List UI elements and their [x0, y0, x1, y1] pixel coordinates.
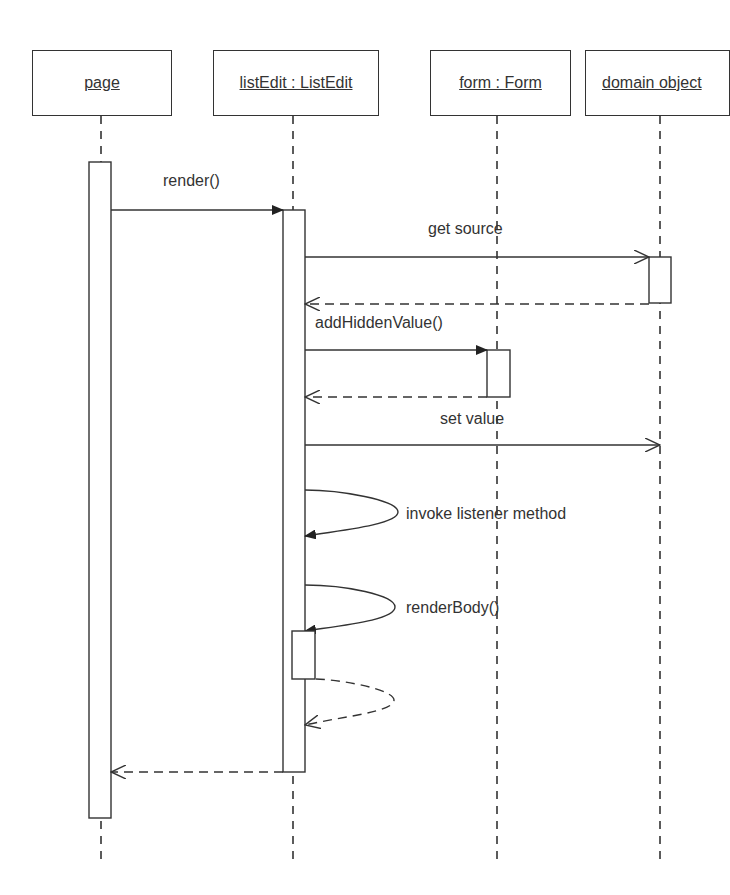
- participant-domain-object: domain object: [585, 50, 730, 116]
- activation-renderbody: [292, 631, 315, 679]
- message-set-value-label: set value: [440, 410, 504, 428]
- message-render-label: render(): [163, 172, 220, 190]
- message-get-source-label: get source: [428, 220, 503, 238]
- activation-domain-get: [649, 257, 671, 303]
- activation-page: [89, 162, 111, 818]
- participant-page: page: [32, 50, 172, 116]
- self-return-renderbody-arrow: [305, 679, 394, 725]
- self-message-renderbody-arrow: [305, 585, 395, 631]
- participant-form: form : Form: [430, 50, 571, 116]
- participant-domain-object-label: domain object: [602, 74, 702, 92]
- message-addhiddenvalue-label: addHiddenValue(): [315, 314, 443, 332]
- participant-page-label: page: [84, 74, 120, 92]
- message-invoke-listener-label: invoke listener method: [406, 505, 566, 523]
- self-message-invoke-listener-arrow: [305, 490, 398, 536]
- activation-listedit: [283, 210, 305, 772]
- participant-listedit-label: listEdit : ListEdit: [240, 74, 353, 92]
- participant-listedit: listEdit : ListEdit: [213, 50, 379, 116]
- activation-form: [487, 350, 510, 397]
- participant-form-label: form : Form: [459, 74, 542, 92]
- message-renderbody-label: renderBody(): [406, 599, 499, 617]
